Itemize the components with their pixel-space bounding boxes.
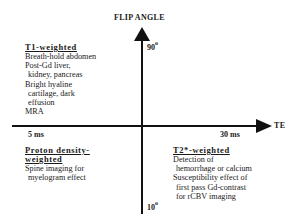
y-axis-bottom-tick: 10o: [147, 203, 158, 212]
pd-line: myelogram effect: [25, 173, 90, 182]
t1-line: kidney, pancreas: [25, 70, 96, 79]
t1-line: Post-Gd liver,: [25, 61, 96, 70]
t1-line: Breath-hold abdomen: [25, 52, 96, 61]
y-axis-top-tick: 90o: [147, 43, 158, 52]
x-axis-right-tick: 30 ms: [220, 130, 240, 139]
bottom-tick-value: 10: [147, 203, 155, 212]
t2star-line: hemorrhage or calcium: [173, 164, 252, 173]
t1-line: effusion: [25, 98, 96, 107]
pd-title-line2: weighted: [25, 155, 90, 164]
x-axis-left-tick: 5 ms: [28, 130, 44, 139]
t2star-line: Detection of: [173, 155, 252, 164]
quadrant-t1-weighted: T1-weighted Breath-hold abdomen Post-Gd …: [25, 43, 96, 116]
x-axis-line: [12, 125, 260, 127]
pd-line: Spine imaging for: [25, 164, 90, 173]
t2star-line: first pass Gd-contrast: [173, 183, 252, 192]
t2star-line: for rCBV imaging: [173, 192, 252, 201]
x-axis-arrowhead-icon: [256, 119, 272, 133]
t2star-title: T2*-weighted: [173, 146, 252, 155]
y-axis-label: FLIP ANGLE: [114, 13, 165, 22]
t1-line: cartilage, dark: [25, 89, 96, 98]
t1-line: MRA: [25, 107, 96, 116]
top-tick-value: 90: [147, 43, 155, 52]
quadrant-proton-density-weighted: Proton density- weighted Spine imaging f…: [25, 146, 90, 182]
quadrant-t2star-weighted: T2*-weighted Detection of hemorrhage or …: [173, 146, 252, 201]
degree-symbol: o: [155, 40, 158, 46]
y-axis-arrowhead-icon: [134, 27, 150, 41]
t2star-line: Susceptibility effect of: [173, 173, 252, 182]
t1-title: T1-weighted: [25, 43, 96, 52]
t1-line: Bright hyaline: [25, 80, 96, 89]
x-axis-label: TE: [274, 121, 285, 130]
degree-symbol: o: [155, 200, 158, 206]
